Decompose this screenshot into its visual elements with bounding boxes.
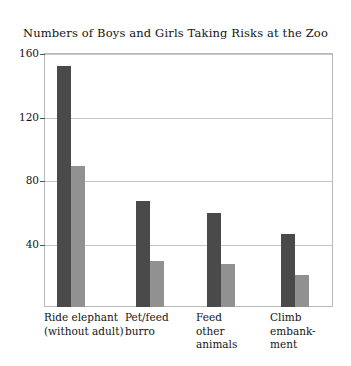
chart-title: Numbers of Boys and Girls Taking Risks a… xyxy=(0,26,351,40)
bars-layer xyxy=(44,53,333,307)
y-tick-label-160: 160 xyxy=(5,47,39,59)
bar-boys xyxy=(57,66,71,307)
bar-girls xyxy=(71,166,85,307)
bar-boys xyxy=(207,213,221,307)
category-label: Climb embank- ment xyxy=(270,311,316,352)
y-axis: 4080120160 xyxy=(0,53,39,307)
bar-group xyxy=(136,53,164,307)
y-tick-label-80: 80 xyxy=(5,174,39,186)
bar-group xyxy=(57,53,85,307)
bar-boys xyxy=(136,201,150,307)
y-tick-label-120: 120 xyxy=(5,111,39,123)
bar-girls xyxy=(295,275,309,307)
category-label: Pet/feed burro xyxy=(125,311,169,338)
bar-group xyxy=(281,53,309,307)
bar-group xyxy=(207,53,235,307)
bar-boys xyxy=(281,234,295,307)
category-label: Ride elephant (without adult) xyxy=(44,311,123,338)
bar-chart: Numbers of Boys and Girls Taking Risks a… xyxy=(0,0,351,366)
category-label: Feed other animals xyxy=(196,311,237,352)
bar-girls xyxy=(150,261,164,307)
bar-girls xyxy=(221,264,235,307)
y-tick-label-40: 40 xyxy=(5,238,39,250)
x-axis-category-labels: Ride elephant (without adult)Pet/feed bu… xyxy=(44,311,344,366)
